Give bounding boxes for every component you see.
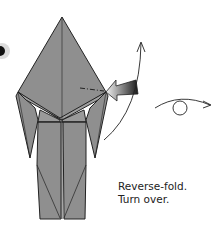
step-caption: Reverse-fold. Turn over.: [118, 180, 187, 206]
left-leg: [37, 122, 61, 219]
origami-figure: [16, 17, 108, 219]
right-leg: [63, 122, 86, 219]
push-arrow-icon: [106, 80, 138, 101]
origami-diagram: [0, 0, 221, 227]
turn-over-icon: [155, 99, 211, 115]
caption-line-1: Reverse-fold.: [118, 180, 187, 193]
step-marker-icon: [0, 43, 10, 59]
caption-line-2: Turn over.: [118, 193, 187, 206]
